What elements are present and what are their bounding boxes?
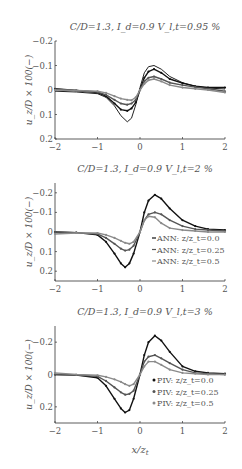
y-tick-label: −0.1	[32, 61, 53, 71]
data-point	[96, 374, 98, 376]
data-point	[105, 94, 107, 96]
data-point	[154, 211, 156, 213]
chart-panel-2: C/D=1.3, I_d=0.9 V_l,t=2 %−0.2−0.100.10.…	[24, 163, 228, 294]
data-point	[120, 391, 122, 393]
data-point	[105, 385, 107, 387]
data-point	[147, 360, 149, 362]
y-tick-label: 0.2	[39, 402, 53, 412]
data-point	[169, 78, 171, 80]
x-axis-label: x/zt	[131, 444, 148, 457]
data-point	[143, 211, 145, 213]
data-point	[126, 104, 128, 106]
y-axis-label: u_z/D × 100(−)	[24, 54, 35, 125]
data-point	[143, 354, 145, 356]
data-point	[160, 213, 162, 215]
y-tick-label: −0.2	[32, 337, 53, 347]
legend-entry: PIV: z/z_t=0.5	[157, 399, 214, 408]
data-point	[207, 231, 209, 233]
data-point	[143, 219, 145, 221]
data-point	[133, 252, 135, 254]
x-tick-label: −2	[49, 284, 62, 294]
x-tick-label: 0	[137, 426, 142, 436]
data-point	[113, 102, 115, 104]
chart-title: C/D=1.3, I_d=0.9 V_l,t=2 %	[77, 163, 212, 175]
y-tick-label: 0	[48, 85, 53, 95]
data-point	[120, 97, 122, 99]
data-point	[113, 386, 115, 388]
data-point	[54, 231, 56, 233]
x-tick-label: −2	[49, 142, 62, 152]
data-point	[169, 227, 171, 229]
data-point	[153, 78, 155, 80]
data-point	[128, 393, 130, 395]
data-point	[181, 82, 183, 84]
y-axis-label: u_z/D × 100(−)	[24, 196, 35, 267]
chart-title: C/D=1.3, I_d=0.9 V_l,t=3 %	[77, 306, 212, 318]
data-point	[133, 398, 135, 400]
data-point	[169, 369, 171, 371]
data-point	[120, 240, 122, 242]
data-point	[124, 383, 126, 385]
data-point	[124, 411, 126, 413]
data-point	[113, 99, 115, 101]
data-point	[113, 252, 115, 254]
y-tick-label: −0.1	[32, 207, 53, 217]
data-point	[147, 356, 149, 358]
data-point	[75, 232, 77, 234]
data-point	[105, 237, 107, 239]
data-point	[135, 96, 137, 98]
data-point	[130, 107, 132, 109]
series-line	[55, 66, 225, 122]
data-point	[105, 92, 107, 94]
data-point	[54, 372, 56, 374]
x-tick-label: −1	[91, 142, 104, 152]
data-point	[181, 84, 183, 86]
legend-entry: PIV: z/z_t=0.25	[157, 388, 219, 397]
data-point	[160, 72, 162, 74]
data-point	[160, 80, 162, 82]
x-tick-label: 1	[180, 142, 185, 152]
data-point	[128, 249, 130, 251]
data-point	[120, 109, 122, 111]
x-tick-label: −1	[91, 426, 104, 436]
data-point	[194, 373, 196, 375]
data-point	[133, 383, 135, 385]
data-point	[124, 242, 126, 244]
x-tick-label: −2	[49, 426, 62, 436]
chart-title: C/D=1.3, I_d=0.9 V_l,t=0.95 %	[70, 21, 221, 33]
data-point	[105, 380, 107, 382]
data-point	[133, 245, 135, 247]
data-point	[160, 78, 162, 80]
data-point	[124, 250, 126, 252]
data-point	[224, 86, 226, 88]
data-point	[181, 365, 183, 367]
data-point	[128, 409, 130, 411]
data-point	[224, 91, 226, 93]
data-point	[124, 266, 126, 268]
data-point	[133, 390, 135, 392]
data-point	[75, 373, 77, 375]
data-point	[135, 101, 137, 103]
data-point	[147, 215, 149, 217]
data-point	[143, 77, 145, 79]
data-point	[154, 360, 156, 362]
x-tick-label: 1	[180, 284, 185, 294]
data-point	[147, 77, 149, 79]
data-point	[133, 241, 135, 243]
x-tick-label: 0	[137, 142, 142, 152]
x-tick-label: −1	[91, 284, 104, 294]
data-point	[139, 231, 141, 233]
data-point	[113, 243, 115, 245]
data-point	[105, 376, 107, 378]
chart-panel-3: C/D=1.3, I_d=0.9 V_l,t=3 %−0.200.2−2−101…	[24, 306, 228, 436]
data-point	[160, 357, 162, 359]
data-point	[154, 335, 156, 337]
data-point	[126, 99, 128, 101]
data-point	[135, 99, 137, 101]
data-point	[113, 378, 115, 380]
data-point	[181, 219, 183, 221]
x-tick-label: 2	[222, 284, 227, 294]
data-point	[181, 372, 183, 374]
data-point	[120, 407, 122, 409]
data-point	[113, 398, 115, 400]
